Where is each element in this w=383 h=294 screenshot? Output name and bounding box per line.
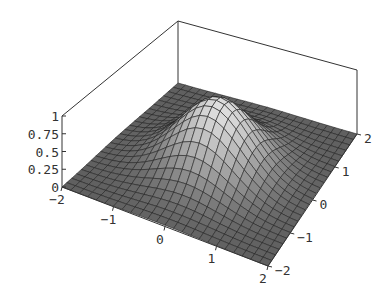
x-tick-label: 1: [208, 251, 216, 266]
x-tick-label: −2: [49, 192, 65, 207]
y-tick-label: 0: [320, 197, 328, 212]
x-tick: [113, 207, 114, 211]
y-tick-label: −2: [275, 263, 291, 278]
y-tick: [313, 200, 317, 201]
z-tick-label: 0.75: [28, 127, 59, 142]
y-tick: [357, 134, 361, 135]
y-tick: [335, 167, 339, 168]
x-tick-label: 0: [156, 232, 164, 247]
z-tick-label: 1: [51, 109, 59, 124]
x-tick-label: 2: [259, 271, 267, 286]
surface-plot: 00.250.50.751 −2−1012 −2−1012: [0, 0, 383, 294]
box-edge-top-right: [178, 21, 357, 70]
x-tick: [216, 246, 217, 250]
y-tick-label: 1: [342, 164, 350, 179]
z-axis: 00.250.50.751: [28, 109, 66, 195]
x-tick: [61, 187, 62, 191]
y-tick-label: −1: [297, 230, 313, 245]
z-tick-label: 0.25: [28, 162, 59, 177]
y-tick-label: 2: [364, 131, 372, 146]
y-tick: [290, 233, 294, 234]
x-tick-label: −1: [101, 212, 117, 227]
x-tick: [267, 266, 268, 270]
y-tick: [268, 266, 272, 267]
x-tick: [164, 227, 165, 231]
z-tick-label: 0.5: [36, 145, 59, 160]
